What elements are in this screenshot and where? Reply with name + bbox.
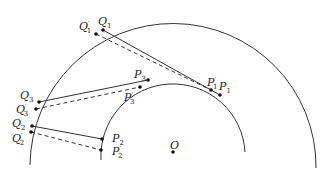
diagram-canvas: Q′1 Q1 P′1 P1 P3 P′3 Q3 Q′3 Q2 Q′2 P2 P′…	[0, 0, 330, 174]
point-p2-prime	[99, 148, 103, 152]
point-p3	[146, 78, 150, 82]
label-p1: P1	[218, 80, 231, 95]
label-p3: P3	[133, 68, 146, 83]
label-q3: Q3	[20, 89, 34, 104]
label-p1-prime: P′1	[206, 76, 217, 91]
point-p1	[218, 93, 222, 97]
label-q3-prime: Q′3	[16, 103, 28, 118]
label-q2-prime: Q′2	[12, 132, 24, 147]
label-p2-prime: P′2	[111, 145, 122, 160]
point-q3	[37, 100, 41, 104]
segment-q2-p2	[32, 126, 102, 139]
circle-chord-diagram: Q′1 Q1 P′1 P1 P3 P′3 Q3 Q′3 Q2 Q′2 P2 P′…	[0, 0, 330, 174]
label-p3-prime: P′3	[123, 91, 134, 106]
label-q2: Q2	[12, 117, 26, 132]
label-q1: Q1	[98, 15, 112, 30]
point-q3-prime	[34, 107, 38, 111]
label-o: O	[170, 139, 179, 152]
segment-q1p-p1p	[96, 34, 211, 90]
label-q1-prime: Q′1	[79, 20, 91, 35]
point-p2	[100, 137, 104, 141]
point-q2	[30, 124, 34, 128]
segment-q2p-p2p	[31, 132, 101, 150]
point-q2-prime	[29, 130, 33, 134]
point-p3-prime	[138, 85, 142, 89]
point-q1-prime	[94, 32, 98, 36]
point-q1	[101, 28, 105, 32]
